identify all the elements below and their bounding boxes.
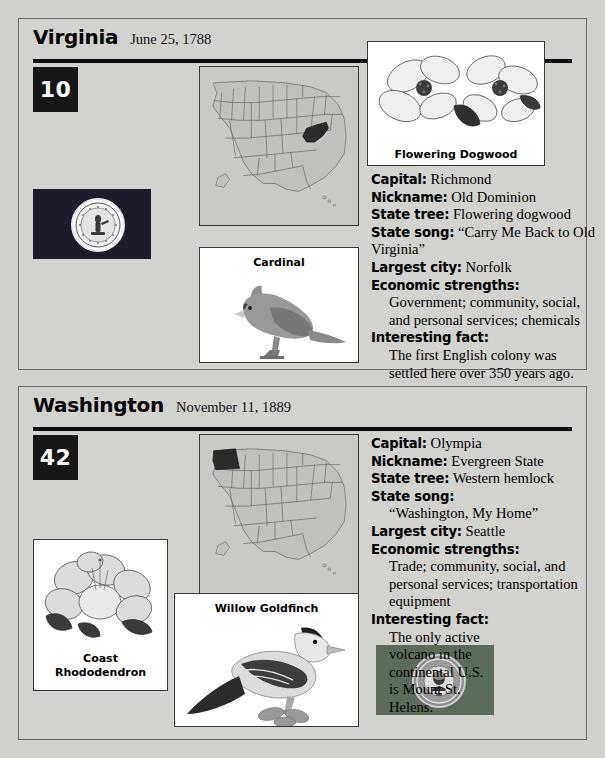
statehood-rank-badge: 10	[33, 67, 78, 112]
state-bird-caption: Willow Goldfinch	[175, 602, 358, 615]
card-header-washington: WashingtonNovember 11, 1889	[33, 393, 572, 427]
fact-row-interesting-fact: Interesting fact: The only active volcan…	[371, 611, 597, 717]
us-map-panel	[199, 66, 359, 226]
fact-label: State tree:	[371, 471, 449, 486]
coast-rhododendron-illustration	[34, 544, 168, 652]
fact-label: Economic strengths:	[371, 541, 597, 559]
highlighted-state-shape	[213, 449, 240, 470]
fact-row-state-tree: State tree: Flowering dogwood	[371, 206, 597, 224]
fact-label: Largest city:	[371, 524, 462, 539]
state-bird-caption: Cardinal	[200, 256, 358, 269]
fact-value: Norfolk	[466, 259, 512, 275]
fact-label: Capital:	[371, 172, 427, 187]
fact-value: Flowering dogwood	[453, 206, 571, 222]
fact-value: Olympia	[431, 435, 482, 451]
seal-artwork	[75, 202, 121, 248]
fact-row-state-tree: State tree: Western hemlock	[371, 470, 597, 488]
state-name: Washington	[33, 393, 164, 417]
fact-label: State song:	[371, 225, 454, 240]
fact-value: Richmond	[431, 171, 492, 187]
state-bird-panel-goldfinch: Willow Goldfinch	[174, 593, 359, 727]
fact-row-interesting-fact: Interesting fact: The first English colo…	[371, 329, 597, 382]
fact-row-state-song: State song: “Carry Me Back to Old Virgin…	[371, 224, 597, 259]
page-canvas: VirginiaJune 25, 1788 10	[0, 0, 605, 758]
virginia-state-flag	[33, 189, 151, 259]
flowering-dogwood-illustration	[368, 44, 545, 144]
statehood-rank-badge: 42	[33, 435, 78, 480]
fact-label: Interesting fact:	[371, 611, 597, 629]
fact-row-capital: Capital: Olympia	[371, 435, 597, 453]
header-divider	[33, 427, 572, 431]
fact-row-economic-strengths: Economic strengths: Trade; community, so…	[371, 541, 597, 611]
fact-row-economic-strengths: Economic strengths: Government; communit…	[371, 277, 597, 330]
statehood-date: November 11, 1889	[176, 399, 291, 416]
state-bird-panel-cardinal: Cardinal	[199, 247, 359, 363]
united-states-map-virginia-highlighted	[200, 67, 358, 225]
fact-value-text: The only active volcano in the continent…	[389, 629, 483, 715]
fact-label: Economic strengths:	[371, 277, 597, 295]
cardinal-illustration	[200, 270, 359, 363]
fact-label: Nickname:	[371, 190, 448, 205]
willow-goldfinch-illustration	[175, 616, 359, 727]
fact-label: State song:	[371, 488, 597, 506]
flag-text-wrap-spacer	[485, 633, 597, 707]
united-states-map-washington-highlighted	[200, 435, 358, 593]
state-flower-panel-dogwood: Flowering Dogwood	[367, 41, 545, 166]
statehood-date: June 25, 1788	[130, 31, 211, 48]
fact-label: Largest city:	[371, 260, 462, 275]
state-flower-panel-rhododendron: Coast Rhododendron	[33, 539, 168, 691]
fact-label: Interesting fact:	[371, 329, 597, 347]
fact-row-largest-city: Largest city: Seattle	[371, 523, 597, 541]
fact-value: Evergreen State	[451, 453, 544, 469]
virginia-state-seal	[71, 198, 125, 252]
fact-row-capital: Capital: Richmond	[371, 171, 597, 189]
us-map-panel	[199, 434, 359, 594]
fact-value: Trade; community, social, and personal s…	[371, 558, 597, 611]
state-flower-caption-line1: Coast	[34, 652, 167, 665]
fact-value: Government; community, social, and perso…	[371, 294, 597, 329]
fact-value: Seattle	[466, 523, 506, 539]
state-facts-washington: Capital: Olympia Nickname: Evergreen Sta…	[371, 435, 597, 717]
fact-value: “Washington, My Home”	[371, 505, 597, 523]
fact-row-largest-city: Largest city: Norfolk	[371, 259, 597, 277]
fact-value: The first English colony was settled her…	[371, 347, 597, 382]
state-name: Virginia	[33, 25, 118, 49]
fact-row-nickname: Nickname: Evergreen State	[371, 453, 597, 471]
fact-value: The only active volcano in the continent…	[371, 629, 597, 717]
fact-value: Old Dominion	[451, 189, 536, 205]
fact-row-nickname: Nickname: Old Dominion	[371, 189, 597, 207]
state-facts-virginia: Capital: Richmond Nickname: Old Dominion…	[371, 171, 597, 382]
fact-label: Nickname:	[371, 454, 448, 469]
state-flower-caption-line2: Rhododendron	[34, 666, 167, 679]
fact-label: Capital:	[371, 436, 427, 451]
state-card-virginia: VirginiaJune 25, 1788 10	[18, 18, 587, 370]
state-flower-caption: Flowering Dogwood	[368, 148, 544, 161]
fact-row-state-song: State song: “Washington, My Home”	[371, 488, 597, 523]
fact-value: Western hemlock	[453, 470, 554, 486]
fact-label: State tree:	[371, 207, 449, 222]
state-card-washington: WashingtonNovember 11, 1889 42	[18, 386, 587, 740]
